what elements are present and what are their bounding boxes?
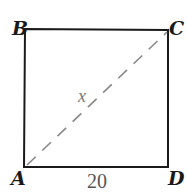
side-length-label: 20	[87, 170, 107, 192]
vertex-label-d: D	[167, 167, 185, 189]
vertex-label-c: C	[169, 17, 184, 39]
vertex-label-a: A	[9, 167, 26, 189]
diagonal-ac	[27, 32, 167, 165]
diagonal-label: x	[77, 86, 86, 106]
vertex-label-b: B	[11, 17, 28, 39]
square-diagram: B C A D 20 x	[0, 0, 187, 193]
